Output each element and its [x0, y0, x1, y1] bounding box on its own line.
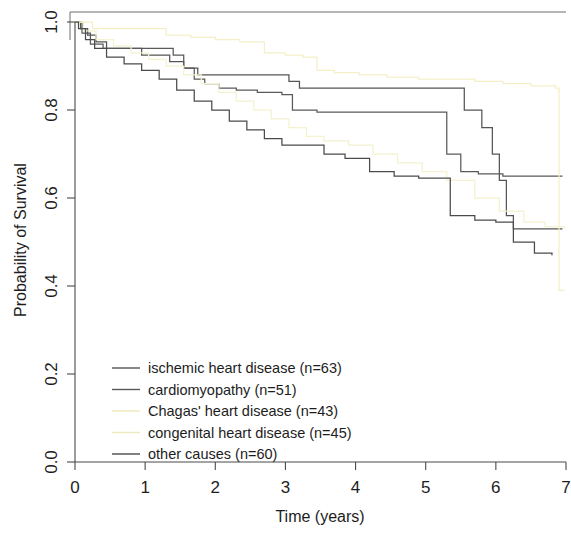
legend-label-4: other causes (n=60)	[148, 446, 277, 462]
y-tick-label: 0.6	[42, 186, 61, 210]
y-tick-label: 1.0	[42, 10, 61, 34]
x-tick-label: 0	[70, 478, 79, 497]
y-tick-label: 0.2	[42, 362, 61, 386]
y-tick-label: 0.0	[42, 450, 61, 474]
x-tick-label: 1	[140, 478, 149, 497]
x-axis-title: Time (years)	[275, 508, 364, 525]
x-tick-label: 2	[211, 478, 220, 497]
survival-chart-svg: 0.00.20.40.60.81.0 01234567 Probability …	[0, 0, 571, 538]
y-tick-label: 0.4	[42, 274, 61, 298]
x-tick-label: 7	[561, 478, 570, 497]
x-tick-label: 5	[421, 478, 430, 497]
legend-label-0: ischemic heart disease (n=63)	[148, 360, 342, 376]
x-tick-label: 3	[281, 478, 290, 497]
y-axis-title: Probability of Survival	[12, 163, 29, 317]
legend-label-1: cardiomyopathy (n=51)	[148, 382, 297, 398]
x-tick-label: 4	[351, 478, 360, 497]
legend-label-2: Chagas' heart disease (n=43)	[148, 403, 338, 419]
chart-background	[0, 0, 571, 538]
legend-label-3: congenital heart disease (n=45)	[148, 425, 352, 441]
x-tick-label: 6	[491, 478, 500, 497]
survival-chart-figure: 0.00.20.40.60.81.0 01234567 Probability …	[0, 0, 571, 538]
y-tick-label: 0.8	[42, 98, 61, 122]
